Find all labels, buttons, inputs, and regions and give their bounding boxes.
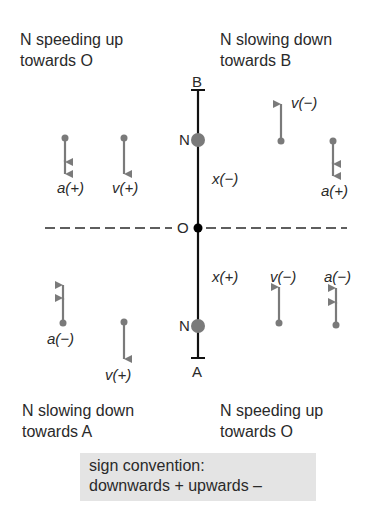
- vector-top-left-velocity: [121, 135, 128, 175]
- motion-diagram: B A O N N x(−) x(+) a(+) v(+) v(−) a(+) …: [0, 0, 381, 509]
- point-n-upper: [191, 133, 205, 147]
- sign-convention-box: sign convention: downwards + upwards –: [80, 453, 316, 501]
- label-top-right-a: a(+): [321, 182, 348, 199]
- vector-top-right-velocity: [278, 104, 285, 145]
- label-n-upper: N: [179, 131, 190, 148]
- label-bottom-right-a: a(−): [324, 268, 351, 285]
- label-bottom-left-a: a(−): [47, 330, 74, 347]
- label-bottom-right-v: v(−): [270, 268, 296, 285]
- label-displacement-negative: x(−): [211, 170, 238, 187]
- label-top-left-a: a(+): [57, 179, 84, 196]
- vector-bottom-right-acceleration: [333, 288, 340, 329]
- vector-bottom-left-acceleration: [60, 285, 67, 327]
- vector-top-left-acceleration: [62, 135, 69, 175]
- label-displacement-positive: x(+): [211, 268, 238, 285]
- label-bottom-left-v: v(+): [105, 366, 131, 383]
- label-b: B: [192, 73, 202, 90]
- sign-convention-title: sign convention:: [89, 456, 316, 476]
- origin-point: [194, 224, 203, 233]
- label-o: O: [177, 219, 189, 236]
- label-top-right-v: v(−): [291, 94, 317, 111]
- label-a: A: [192, 363, 202, 380]
- label-top-left-v: v(+): [112, 179, 138, 196]
- vector-bottom-left-velocity: [121, 319, 128, 360]
- point-n-lower: [191, 319, 205, 333]
- label-n-lower: N: [179, 317, 190, 334]
- sign-convention-rule: downwards + upwards –: [89, 476, 316, 496]
- vector-bottom-right-velocity: [276, 287, 283, 327]
- vector-top-right-acceleration: [330, 138, 337, 177]
